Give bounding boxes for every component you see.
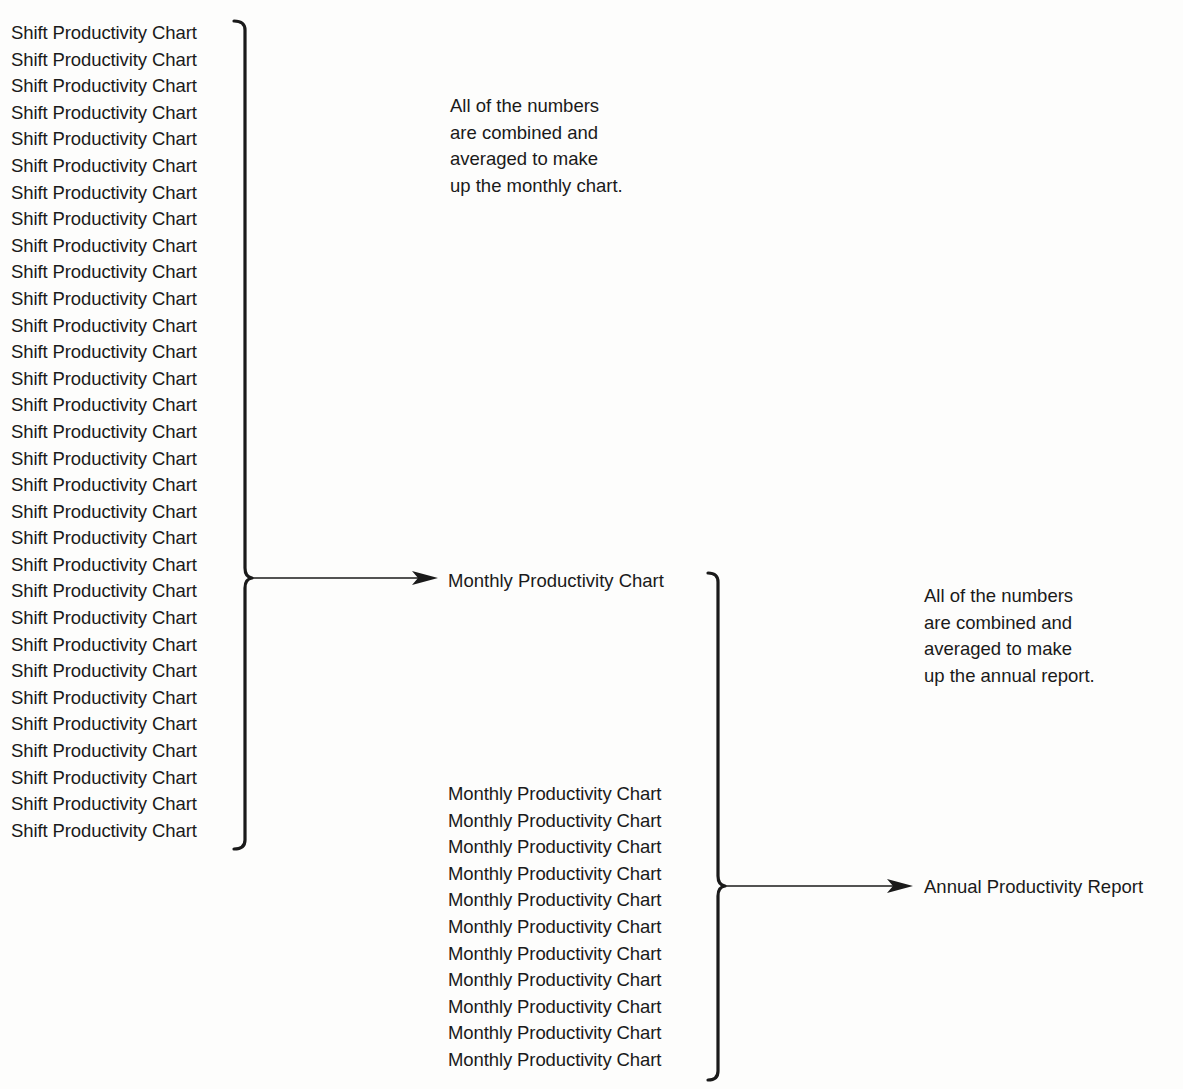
shift-chart-item: Shift Productivity Chart	[11, 552, 197, 579]
shift-chart-item: Shift Productivity Chart	[11, 578, 197, 605]
monthly-chart-item: Monthly Productivity Chart	[448, 887, 661, 914]
shift-chart-item: Shift Productivity Chart	[11, 525, 197, 552]
arrowhead-icon	[887, 879, 913, 893]
monthly-chart-item: Monthly Productivity Chart	[448, 967, 661, 994]
monthly-chart-item: Monthly Productivity Chart	[448, 861, 661, 888]
shift-chart-item: Shift Productivity Chart	[11, 206, 197, 233]
shift-chart-item: Shift Productivity Chart	[11, 47, 197, 74]
note-line: up the annual report.	[924, 663, 1095, 690]
monthly-chart-item: Monthly Productivity Chart	[448, 1020, 661, 1047]
note-line: averaged to make	[450, 146, 623, 173]
shift-chart-item: Shift Productivity Chart	[11, 472, 197, 499]
note-annual-averaging: All of the numbers are combined and aver…	[924, 583, 1095, 689]
shift-chart-item: Shift Productivity Chart	[11, 366, 197, 393]
note-line: averaged to make	[924, 636, 1095, 663]
monthly-chart-item: Monthly Productivity Chart	[448, 941, 661, 968]
shift-chart-item: Shift Productivity Chart	[11, 818, 197, 845]
monthly-chart-item: Monthly Productivity Chart	[448, 1047, 661, 1074]
note-line: All of the numbers	[924, 583, 1095, 610]
monthly-chart-item: Monthly Productivity Chart	[448, 808, 661, 835]
shift-chart-item: Shift Productivity Chart	[11, 20, 197, 47]
annual-result-label: Annual Productivity Report	[924, 874, 1143, 901]
left-brace-icon	[234, 21, 252, 849]
shift-chart-item: Shift Productivity Chart	[11, 419, 197, 446]
shift-chart-item: Shift Productivity Chart	[11, 685, 197, 712]
note-line: up the monthly chart.	[450, 173, 623, 200]
shift-chart-item: Shift Productivity Chart	[11, 446, 197, 473]
shift-chart-item: Shift Productivity Chart	[11, 632, 197, 659]
shift-chart-item: Shift Productivity Chart	[11, 73, 197, 100]
arrowhead-icon	[412, 571, 438, 585]
shift-chart-item: Shift Productivity Chart	[11, 233, 197, 260]
shift-chart-item: Shift Productivity Chart	[11, 499, 197, 526]
shift-chart-item: Shift Productivity Chart	[11, 658, 197, 685]
shift-chart-item: Shift Productivity Chart	[11, 126, 197, 153]
shift-chart-item: Shift Productivity Chart	[11, 738, 197, 765]
monthly-chart-item: Monthly Productivity Chart	[448, 994, 661, 1021]
monthly-chart-list: Monthly Productivity ChartMonthly Produc…	[448, 781, 661, 1074]
shift-chart-item: Shift Productivity Chart	[11, 791, 197, 818]
shift-chart-item: Shift Productivity Chart	[11, 180, 197, 207]
monthly-chart-item: Monthly Productivity Chart	[448, 781, 661, 808]
shift-chart-item: Shift Productivity Chart	[11, 339, 197, 366]
shift-chart-item: Shift Productivity Chart	[11, 153, 197, 180]
note-line: All of the numbers	[450, 93, 623, 120]
shift-chart-item: Shift Productivity Chart	[11, 313, 197, 340]
shift-chart-item: Shift Productivity Chart	[11, 392, 197, 419]
note-monthly-averaging: All of the numbers are combined and aver…	[450, 93, 623, 199]
monthly-chart-item: Monthly Productivity Chart	[448, 914, 661, 941]
shift-chart-item: Shift Productivity Chart	[11, 711, 197, 738]
monthly-chart-item: Monthly Productivity Chart	[448, 834, 661, 861]
shift-chart-item: Shift Productivity Chart	[11, 100, 197, 127]
right-brace-icon	[708, 573, 725, 1080]
shift-chart-list: Shift Productivity ChartShift Productivi…	[11, 20, 197, 844]
note-line: are combined and	[450, 120, 623, 147]
shift-chart-item: Shift Productivity Chart	[11, 605, 197, 632]
monthly-result-label: Monthly Productivity Chart	[448, 568, 664, 595]
productivity-flow-diagram: Shift Productivity ChartShift Productivi…	[0, 0, 1183, 1089]
note-line: are combined and	[924, 610, 1095, 637]
shift-chart-item: Shift Productivity Chart	[11, 286, 197, 313]
shift-chart-item: Shift Productivity Chart	[11, 259, 197, 286]
shift-chart-item: Shift Productivity Chart	[11, 765, 197, 792]
